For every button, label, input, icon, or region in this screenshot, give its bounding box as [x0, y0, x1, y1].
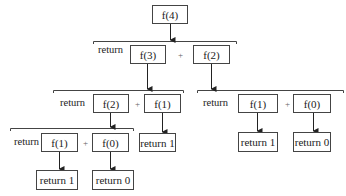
return-label: return — [60, 97, 85, 109]
node-f1-right: f(1) — [238, 94, 278, 113]
node-f1-mid: f(1) — [144, 94, 181, 113]
return-label: return — [14, 136, 39, 148]
plus-sign: + — [83, 138, 88, 148]
plus-sign: + — [135, 99, 140, 109]
node-return1-mid: return 1 — [139, 133, 176, 152]
node-f2-left: f(2) — [93, 94, 129, 113]
node-return0-left: return 0 — [92, 170, 134, 190]
node-return0-right: return 0 — [293, 132, 331, 152]
node-f3: f(3) — [130, 45, 166, 64]
node-f0-right: f(0) — [293, 94, 331, 113]
node-f1-left: f(1) — [41, 133, 78, 152]
node-return1-left: return 1 — [36, 170, 78, 190]
node-return1-right: return 1 — [238, 132, 278, 152]
node-f0-left: f(0) — [92, 133, 129, 152]
node-f2-top: f(2) — [193, 45, 230, 64]
node-f4: f(4) — [152, 5, 188, 24]
return-label: return — [98, 44, 123, 56]
return-label: return — [203, 97, 228, 109]
call-tree-diagram: f(4) return f(3) + f(2) return f(2) + f(… — [0, 0, 346, 196]
plus-sign: + — [285, 99, 290, 109]
plus-sign: + — [178, 50, 183, 60]
